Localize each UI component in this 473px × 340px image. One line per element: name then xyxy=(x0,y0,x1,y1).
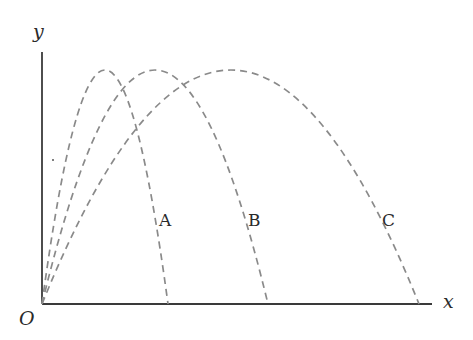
projectile-diagram: y x O A B C xyxy=(0,0,473,340)
trajectory-a-label: A xyxy=(159,212,171,229)
trajectory-c-label: C xyxy=(382,212,395,229)
diagram-canvas xyxy=(0,0,473,340)
trajectory-b-label: B xyxy=(248,212,261,229)
trajectory-a xyxy=(42,70,168,304)
trajectory-c xyxy=(42,70,419,304)
x-axis-label: x xyxy=(443,292,454,311)
trajectory-b xyxy=(42,70,268,304)
y-axis-label: y xyxy=(33,22,44,41)
stray-dot xyxy=(52,159,54,161)
origin-label: O xyxy=(19,309,35,328)
